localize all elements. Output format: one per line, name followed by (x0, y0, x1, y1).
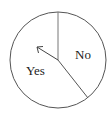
spinner-diagram: Yes No (0, 0, 112, 116)
section-label-yes: Yes (26, 63, 45, 78)
section-label-no: No (75, 47, 91, 62)
